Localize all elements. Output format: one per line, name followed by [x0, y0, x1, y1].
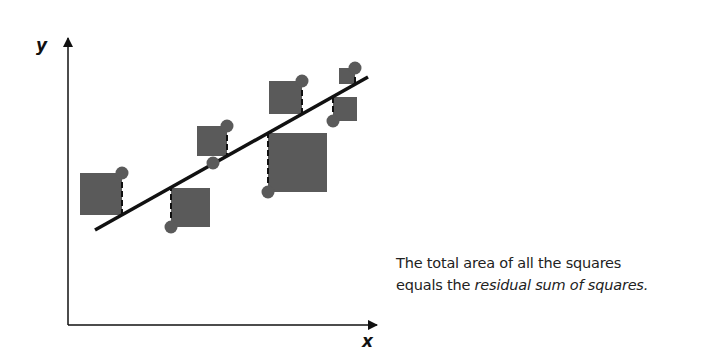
caption-line-2: equals the residual sum of squares. — [396, 274, 696, 296]
data-point — [327, 115, 340, 128]
data-point — [116, 167, 129, 180]
regression-diagram — [0, 0, 707, 363]
caption-line-1: The total area of all the squares — [396, 252, 696, 274]
data-point — [262, 186, 275, 199]
residual-square — [171, 188, 210, 227]
residual-square — [269, 81, 302, 114]
data-point — [165, 221, 178, 234]
regression-line — [95, 77, 368, 230]
data-point — [207, 157, 220, 170]
y-axis-label: y — [36, 35, 47, 55]
residual-square — [80, 173, 122, 215]
x-axis-label: x — [362, 331, 373, 351]
caption-line-2-prefix: equals the — [396, 277, 475, 293]
caption-emphasis: residual sum of squares. — [475, 277, 649, 293]
data-point — [296, 75, 309, 88]
residual-square — [268, 133, 327, 192]
data-point — [349, 62, 362, 75]
caption: The total area of all the squares equals… — [396, 252, 696, 296]
data-point — [221, 120, 234, 133]
